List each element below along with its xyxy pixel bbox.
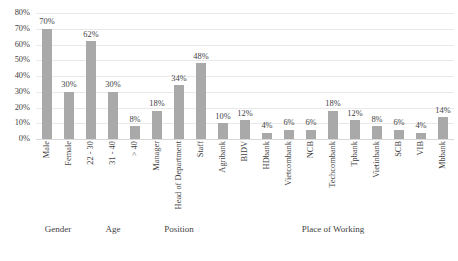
bar xyxy=(174,85,184,139)
x-axis-tick-label-text: BIDV xyxy=(241,141,250,161)
bar-slot: 8% xyxy=(124,13,146,139)
bar xyxy=(394,130,404,139)
x-axis-tick-label-text: > 40 xyxy=(131,141,140,156)
x-axis-tick-label-text: Head of Department xyxy=(175,141,184,209)
bar-slot: 18% xyxy=(322,13,344,139)
x-axis-tick-label-text: Tpbank xyxy=(351,141,360,167)
y-axis-tick-label: 70% xyxy=(0,25,30,33)
x-axis-tick-label: 31 - 40 xyxy=(102,141,124,217)
bar-slot: 4% xyxy=(410,13,432,139)
x-axis-group-label: Gender xyxy=(36,224,80,235)
x-axis-tick-label: Vietinbank xyxy=(366,141,388,217)
x-axis-tick-label: VIB xyxy=(410,141,432,217)
bar xyxy=(306,130,316,139)
x-axis-tick-label: BIDV xyxy=(234,141,256,217)
bar xyxy=(284,130,294,139)
y-axis-tick-label: 0% xyxy=(0,135,30,143)
bar xyxy=(416,133,426,139)
x-axis-tick-label: Manager xyxy=(146,141,168,217)
bar-series: 70%30%62%30%8%18%34%48%10%12%4%6%6%18%12… xyxy=(36,13,454,139)
y-axis-tick-label: 60% xyxy=(0,41,30,49)
x-axis-tick-label: NCB xyxy=(300,141,322,217)
x-axis-tick-label: Head of Department xyxy=(168,141,190,217)
bar-slot: 14% xyxy=(432,13,454,139)
x-axis-tick-label-text: Agribank xyxy=(219,141,228,173)
x-axis-tick-label: Techcombank xyxy=(322,141,344,217)
x-axis-tick-label: Staff xyxy=(190,141,212,217)
y-axis-tick-label: 20% xyxy=(0,104,30,112)
bar-slot: 6% xyxy=(300,13,322,139)
x-axis-group-label: Place of Working xyxy=(212,224,454,235)
x-axis-group-label: Position xyxy=(146,224,212,235)
bar-slot: 12% xyxy=(234,13,256,139)
x-axis-tick-label: Tpbank xyxy=(344,141,366,217)
bar-chart: 80%70%60%50%40%30%20%10%0% 70%30%62%30%8… xyxy=(0,0,458,261)
y-axis-tick-label: 30% xyxy=(0,88,30,96)
bar-slot: 62% xyxy=(80,13,102,139)
x-axis-tick-label-text: Male xyxy=(43,141,52,158)
bar xyxy=(262,133,272,139)
x-axis-tick-label: Male xyxy=(36,141,58,217)
x-axis-tick-label: HDbank xyxy=(256,141,278,217)
bar-value-label: 14% xyxy=(426,107,458,115)
x-axis-tick-label-text: NCB xyxy=(307,141,316,158)
bar xyxy=(152,111,162,139)
x-axis-group-labels: GenderAgePositionPlace of Working xyxy=(36,224,454,244)
x-axis-tick-label-text: Vietcombank xyxy=(285,141,294,186)
y-axis: 80%70%60%50%40%30%20%10%0% xyxy=(0,13,32,139)
x-axis-tick-label: Agribank xyxy=(212,141,234,217)
bar-slot: 34% xyxy=(168,13,190,139)
x-axis-tick-label-text: SCB xyxy=(395,141,404,157)
y-axis-tick-label: 40% xyxy=(0,72,30,80)
bar xyxy=(350,120,360,139)
bar xyxy=(218,123,228,139)
x-axis-group-label: Age xyxy=(80,224,146,235)
x-axis-tick-label-text: Female xyxy=(65,141,74,166)
x-axis-tick-label-text: Vietinbank xyxy=(373,141,382,178)
y-axis-tick-label: 80% xyxy=(0,9,30,17)
x-axis-tick-label: Vietcombank xyxy=(278,141,300,217)
bar xyxy=(64,92,74,139)
gridline xyxy=(36,139,454,140)
bar-slot: 10% xyxy=(212,13,234,139)
x-axis-tick-label: SCB xyxy=(388,141,410,217)
y-axis-tick-label: 10% xyxy=(0,119,30,127)
x-axis-tick-label-text: Manager xyxy=(153,141,162,171)
bar xyxy=(86,41,96,139)
bar xyxy=(196,63,206,139)
x-axis-tick-label-text: Mbbank xyxy=(439,141,448,169)
bar xyxy=(130,126,140,139)
x-axis-tick-label-text: 22 - 30 xyxy=(87,141,96,165)
y-axis-tick-label: 50% xyxy=(0,56,30,64)
x-axis-tick-label: > 40 xyxy=(124,141,146,217)
bar xyxy=(438,117,448,139)
x-axis-tick-label: Mbbank xyxy=(432,141,454,217)
bar-slot: 6% xyxy=(388,13,410,139)
bar xyxy=(42,29,52,139)
bar xyxy=(372,126,382,139)
x-axis-category-labels: MaleFemale22 - 3031 - 40> 40ManagerHead … xyxy=(36,141,454,219)
bar xyxy=(240,120,250,139)
x-axis-tick-label-text: Staff xyxy=(197,141,206,157)
x-axis-tick-label: 22 - 30 xyxy=(80,141,102,217)
bar xyxy=(328,111,338,139)
x-axis-tick-label-text: HDbank xyxy=(263,141,272,169)
bar-slot: 70% xyxy=(36,13,58,139)
x-axis-tick-label: Female xyxy=(58,141,80,217)
x-axis-tick-label-text: VIB xyxy=(417,141,426,155)
x-axis-tick-label-text: 31 - 40 xyxy=(109,141,118,165)
bar xyxy=(108,92,118,139)
x-axis-tick-label-text: Techcombank xyxy=(329,141,338,188)
